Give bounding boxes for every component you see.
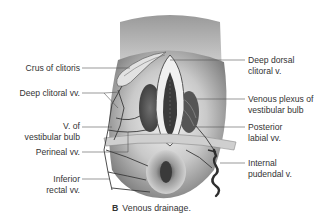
label-posterior-labial-vv: Posterior labial vv.: [248, 122, 282, 143]
label-text-line2: vestibular bulb: [4, 132, 80, 143]
label-text-line2: labial vv.: [248, 133, 282, 144]
label-inferior-rectal-vv: Inferior rectal vv.: [4, 174, 80, 195]
figure-caption: BVenous drainage.: [112, 203, 191, 213]
label-text: Deep clitoral vv.: [20, 88, 81, 98]
label-text-line2: pudendal v.: [248, 169, 292, 180]
caption-text: Venous drainage.: [122, 203, 190, 213]
label-text-line1: Venous plexus of: [248, 94, 313, 105]
label-text-line1: V. of: [4, 121, 80, 132]
label-crus-of-clitoris: Crus of clitoris: [4, 63, 80, 74]
label-perineal-vv: Perineal vv.: [4, 147, 80, 158]
anatomy-figure: Crus of clitoris Deep clitoral vv. V. of…: [0, 0, 322, 222]
label-text-line2: rectal vv.: [4, 185, 80, 196]
label-text-line1: Deep dorsal: [248, 55, 294, 66]
label-v-of-vestibular-bulb: V. of vestibular bulb: [4, 121, 80, 142]
label-text-line1: Internal: [248, 158, 292, 169]
label-text: Crus of clitoris: [26, 63, 80, 73]
label-text-line2: clitoral v.: [248, 66, 294, 77]
label-internal-pudendal-v: Internal pudendal v.: [248, 158, 292, 179]
label-text-line2: vestibular bulb: [248, 105, 313, 116]
label-text-line1: Posterior: [248, 122, 282, 133]
label-venous-plexus-of-vestibular-bulb: Venous plexus of vestibular bulb: [248, 94, 313, 115]
caption-letter: B: [112, 203, 118, 213]
label-deep-dorsal-clitoral-v: Deep dorsal clitoral v.: [248, 55, 294, 76]
label-text: Perineal vv.: [36, 147, 80, 157]
label-text-line1: Inferior: [4, 174, 80, 185]
label-deep-clitoral-vv: Deep clitoral vv.: [4, 88, 80, 99]
